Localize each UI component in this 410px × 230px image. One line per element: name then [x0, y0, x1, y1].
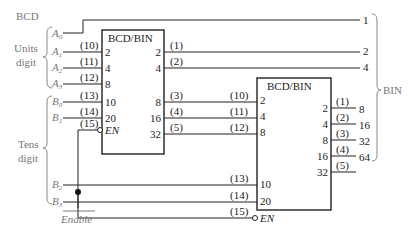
bcd-to-binary-diagram: BCD Units digit Tens digit BIN Enable A0…: [0, 0, 410, 230]
b2-label: B2: [52, 178, 63, 192]
b1-label: B1: [52, 111, 62, 125]
svg-text:(12): (12): [80, 71, 99, 84]
svg-text:(15): (15): [230, 205, 249, 218]
svg-text:(3): (3): [336, 127, 349, 140]
svg-text:(15): (15): [80, 117, 99, 130]
b0-label: B0: [52, 95, 63, 109]
svg-text:2: 2: [260, 94, 266, 106]
svg-text:(2): (2): [336, 111, 349, 124]
svg-text:16: 16: [150, 112, 162, 124]
tens-digit-label: digit: [18, 152, 38, 164]
svg-text:8: 8: [323, 134, 329, 146]
tens-label: Tens: [18, 138, 39, 150]
out-2: 2: [363, 45, 369, 57]
svg-text:(3): (3): [170, 89, 183, 102]
svg-text:8: 8: [156, 96, 162, 108]
out-4: 4: [363, 61, 369, 73]
a2-label: A2: [51, 61, 63, 75]
svg-text:(5): (5): [336, 159, 349, 172]
chip2-title: BCD/BIN: [267, 80, 312, 92]
svg-text:(2): (2): [170, 55, 183, 68]
svg-text:4: 4: [260, 110, 266, 122]
a1-label: A1: [51, 45, 62, 59]
tens-brace: [43, 96, 52, 204]
svg-text:8: 8: [260, 126, 266, 138]
a3-label: A3: [51, 77, 63, 91]
svg-text:(5): (5): [170, 121, 183, 134]
svg-text:(11): (11): [230, 105, 248, 118]
svg-text:4: 4: [323, 118, 329, 130]
svg-text:32: 32: [317, 166, 328, 178]
svg-text:(14): (14): [230, 189, 249, 202]
svg-text:(1): (1): [336, 95, 349, 108]
bcd-label: BCD: [16, 10, 39, 22]
svg-text:(4): (4): [336, 143, 349, 156]
svg-text:4: 4: [156, 62, 162, 74]
svg-text:10: 10: [105, 96, 117, 108]
bin-brace: [372, 14, 381, 161]
svg-text:(11): (11): [80, 55, 98, 68]
svg-text:(12): (12): [230, 121, 249, 134]
svg-text:8: 8: [105, 78, 111, 90]
a0-label: A0: [51, 27, 63, 41]
svg-text:20: 20: [260, 195, 272, 207]
svg-text:(1): (1): [170, 39, 183, 52]
units-digit-label: digit: [16, 56, 36, 68]
enable-label: Enable: [60, 213, 92, 225]
svg-text:(10): (10): [80, 39, 99, 52]
svg-text:4: 4: [105, 62, 111, 74]
svg-text:(13): (13): [230, 172, 249, 185]
svg-text:(13): (13): [80, 89, 99, 102]
out-16: 16: [359, 119, 371, 131]
wire-en1: [78, 130, 99, 208]
svg-text:EN: EN: [104, 124, 120, 136]
svg-text:EN: EN: [259, 212, 275, 224]
svg-text:32: 32: [150, 128, 161, 140]
chip1-title: BCD/BIN: [108, 32, 153, 44]
svg-text:10: 10: [260, 178, 272, 190]
units-brace: [43, 27, 52, 88]
svg-text:2: 2: [323, 102, 329, 114]
out-8: 8: [359, 103, 365, 115]
svg-text:(10): (10): [230, 89, 249, 102]
chip2-en-bubble: [253, 216, 258, 221]
b3-label: B3: [52, 195, 63, 209]
svg-text:(4): (4): [170, 105, 183, 118]
svg-text:2: 2: [105, 46, 111, 58]
svg-text:2: 2: [156, 46, 162, 58]
out-64: 64: [359, 151, 371, 163]
units-label: Units: [14, 42, 38, 54]
junction-dot: [75, 189, 81, 195]
svg-text:16: 16: [317, 150, 329, 162]
out-32: 32: [359, 135, 370, 147]
out-1: 1: [363, 14, 369, 26]
chip2-box: [257, 78, 331, 210]
svg-text:20: 20: [105, 112, 117, 124]
bin-label: BIN: [383, 84, 402, 96]
